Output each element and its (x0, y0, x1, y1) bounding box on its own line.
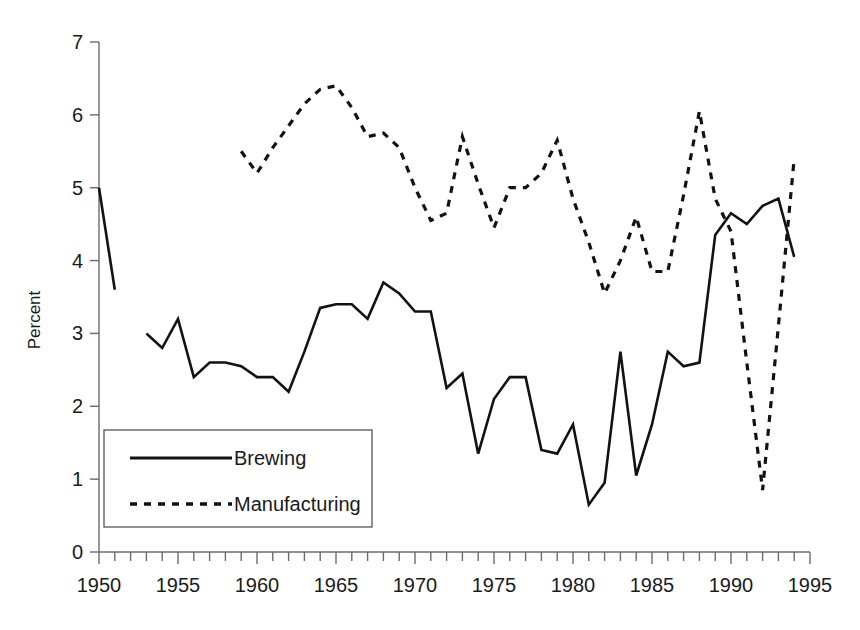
chart-legend: BrewingManufacturing (104, 430, 372, 527)
y-tick-label: 5 (72, 177, 83, 199)
y-tick-label: 3 (72, 322, 83, 344)
x-tick-label: 1970 (393, 574, 438, 596)
y-tick-label: 1 (72, 468, 83, 490)
y-tick-label: 7 (72, 31, 83, 53)
x-tick-label: 1965 (314, 574, 359, 596)
y-tick-label: 0 (72, 541, 83, 563)
x-tick-label: 1975 (472, 574, 517, 596)
x-tick-label: 1955 (156, 574, 201, 596)
x-tick-label: 1960 (235, 574, 280, 596)
y-tick-label: 6 (72, 104, 83, 126)
x-tick-label: 1985 (630, 574, 675, 596)
line-chart-figure: 01234567 Percent 19501955196019651970197… (0, 0, 860, 630)
y-tick-label: 2 (72, 395, 83, 417)
chart-background (0, 0, 860, 630)
y-tick-label: 4 (72, 250, 83, 272)
chart-container: 01234567 Percent 19501955196019651970197… (0, 0, 860, 630)
legend-label-brewing: Brewing (234, 447, 306, 469)
x-tick-label: 1980 (551, 574, 596, 596)
x-tick-label: 1990 (709, 574, 754, 596)
y-axis-title: Percent (25, 290, 44, 349)
legend-label-manufacturing: Manufacturing (234, 493, 361, 515)
x-tick-label: 1995 (788, 574, 833, 596)
x-tick-label: 1950 (77, 574, 122, 596)
